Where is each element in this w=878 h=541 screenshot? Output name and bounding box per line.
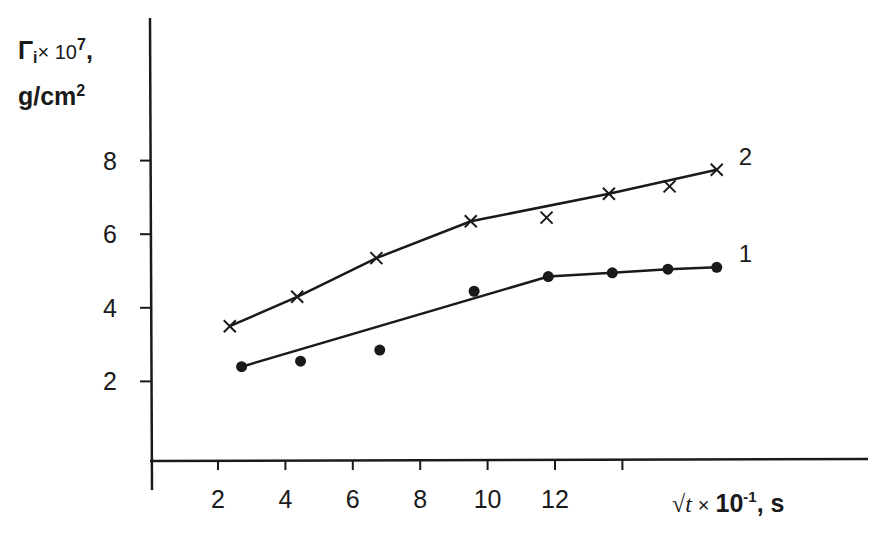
y-tick-label: 6: [103, 220, 117, 248]
filled-circle-marker-icon: [711, 262, 722, 273]
x-marker-icon: [291, 291, 303, 303]
x-tick-label: 12: [541, 485, 569, 513]
y-tick-label: 2: [103, 367, 117, 395]
x-tick-label: 10: [474, 485, 502, 513]
y-tick-label: 8: [103, 147, 117, 175]
x-tick-label: 8: [413, 485, 427, 513]
x-marker-icon: [541, 212, 553, 224]
filled-circle-marker-icon: [662, 264, 673, 275]
y-axis-line: [150, 18, 152, 490]
filled-circle-marker-icon: [236, 361, 247, 372]
x-tick-label: 6: [346, 485, 360, 513]
x-marker-icon: [370, 252, 382, 264]
x-axis-line: [150, 459, 868, 461]
x-tick-label: 4: [278, 485, 292, 513]
filled-circle-marker-icon: [469, 286, 480, 297]
filled-circle-marker-icon: [607, 267, 618, 278]
x-marker-icon: [224, 320, 236, 332]
y-tick-label: 4: [103, 294, 117, 322]
series-label: 2: [739, 143, 752, 170]
series-1-line: [242, 267, 717, 366]
filled-circle-marker-icon: [374, 345, 385, 356]
x-tick-label: 2: [211, 485, 225, 513]
series-label: 1: [739, 240, 752, 267]
chart-plot-area: 24681012246812: [0, 0, 878, 541]
filled-circle-marker-icon: [543, 271, 554, 282]
filled-circle-marker-icon: [295, 356, 306, 367]
x-marker-icon: [664, 180, 676, 192]
